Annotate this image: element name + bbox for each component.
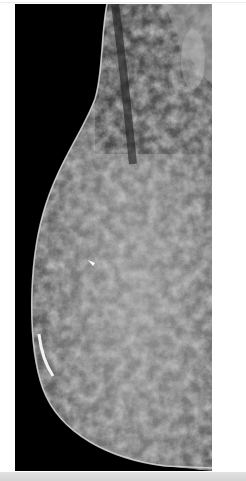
mammogram-canvas bbox=[15, 4, 212, 471]
top-divider bbox=[0, 2, 246, 3]
bottom-bar bbox=[0, 472, 246, 481]
mammogram-image bbox=[15, 4, 212, 471]
breast-tissue bbox=[15, 4, 212, 471]
